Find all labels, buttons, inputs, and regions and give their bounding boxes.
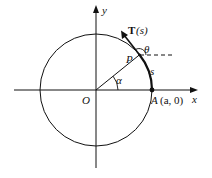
point-p-dot [138, 54, 140, 56]
x-axis-label: x [191, 93, 197, 105]
point-a-coords: (a, 0) [160, 94, 184, 107]
origin-label: O [82, 94, 90, 106]
tangent-vector [124, 35, 140, 55]
tangent-label-t: T [128, 24, 136, 36]
tangent-label-arg: (s) [136, 24, 148, 37]
point-a-label: A [150, 94, 158, 106]
arc-s-label: s [150, 65, 154, 77]
y-axis-label: y [101, 4, 107, 16]
alpha-label: α [116, 74, 122, 86]
theta-label: θ [144, 43, 150, 55]
point-p-label: P [125, 53, 133, 65]
y-axis-arrow-icon [93, 5, 99, 13]
arc-length-diagram: y x O P A (a, 0) α θ s T (s) [0, 0, 212, 178]
point-a-dot [150, 88, 155, 93]
